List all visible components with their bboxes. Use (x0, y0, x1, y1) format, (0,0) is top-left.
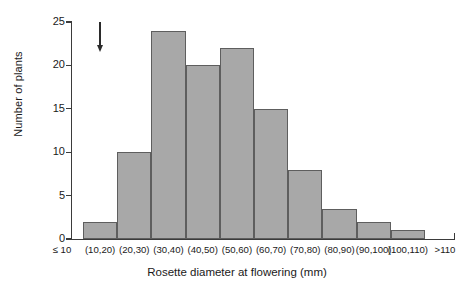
bar-(40,50) (186, 65, 220, 239)
bar-(80,90) (322, 209, 356, 239)
bar-(100,110) (391, 230, 425, 239)
bar-(90,100) (357, 222, 391, 239)
bar-(20,30) (117, 152, 151, 239)
bar-(50,60) (220, 48, 254, 239)
x-tick-label->110: >110 (415, 244, 474, 255)
bar-(30,40) (151, 31, 185, 239)
y-tick-label-10: 10 (25, 145, 65, 157)
y-tick-label-25: 25 (25, 15, 65, 27)
x-axis-line (71, 239, 455, 240)
y-tick-5 (66, 195, 72, 196)
y-axis-title: Number of plants (12, 14, 24, 174)
y-tick-20 (66, 65, 72, 66)
bar-(70,80) (288, 170, 322, 239)
bar-(10,20) (83, 222, 117, 239)
x-axis-title: Rosette diameter at flowering (mm) (0, 266, 474, 278)
y-axis-line (71, 22, 72, 240)
x-axis-right-cap (454, 233, 455, 240)
y-tick-15 (66, 108, 72, 109)
y-tick-label-5: 5 (25, 189, 65, 201)
arrow-head (97, 45, 103, 52)
y-tick-label-20: 20 (25, 58, 65, 70)
histogram-chart: Number of plants 0510152025 ≤ 10(10,20)(… (0, 0, 474, 289)
x-axis-left-cap (71, 233, 72, 240)
y-tick-label-15: 15 (25, 102, 65, 114)
y-tick-label-0: 0 (25, 232, 65, 244)
y-tick-25 (66, 21, 72, 22)
arrow-shaft (99, 22, 100, 46)
y-tick-10 (66, 152, 72, 153)
bar-(60,70) (254, 109, 288, 239)
